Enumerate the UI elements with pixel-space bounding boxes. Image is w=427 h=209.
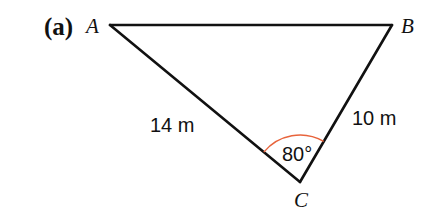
part-label: (a) — [44, 13, 73, 41]
side-label-ac: 14 m — [150, 114, 194, 136]
vertex-label-c: C — [294, 188, 309, 209]
side-ac — [110, 25, 300, 182]
side-label-bc: 10 m — [352, 107, 396, 129]
diagram-svg: (a) A B C 14 m 10 m 80° — [0, 0, 427, 209]
vertex-label-a: A — [84, 14, 99, 38]
vertex-label-b: B — [401, 14, 414, 38]
side-bc — [300, 25, 392, 182]
angle-label-c: 80° — [282, 143, 312, 165]
triangle-diagram: (a) A B C 14 m 10 m 80° — [0, 0, 427, 209]
